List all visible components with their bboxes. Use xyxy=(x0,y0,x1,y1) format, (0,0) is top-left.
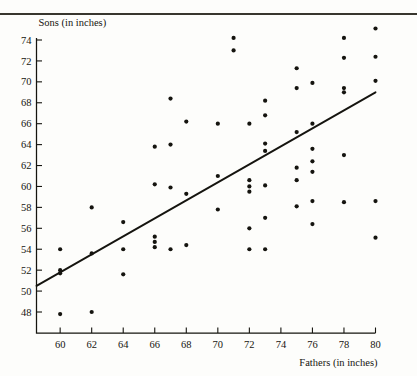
data-point xyxy=(373,55,377,59)
data-point xyxy=(373,79,377,83)
data-point xyxy=(263,216,267,220)
y-tick-label-52: 52 xyxy=(21,265,32,276)
data-point xyxy=(373,199,377,203)
data-point xyxy=(295,130,299,134)
data-point xyxy=(342,90,346,94)
data-point xyxy=(58,271,62,275)
x-tick-label-72: 72 xyxy=(244,339,255,350)
data-point xyxy=(121,272,125,276)
x-tick-label-64: 64 xyxy=(118,339,129,350)
y-tick-label-72: 72 xyxy=(21,56,32,67)
data-point xyxy=(342,200,346,204)
data-point xyxy=(373,236,377,240)
y-tick-label-66: 66 xyxy=(21,118,32,129)
data-point xyxy=(168,143,172,147)
data-point xyxy=(263,99,267,103)
data-point xyxy=(310,170,314,174)
data-point xyxy=(153,145,157,149)
page-header-remnant xyxy=(0,0,417,13)
x-tick-label-74: 74 xyxy=(276,339,287,350)
data-point xyxy=(121,220,125,224)
regression-line xyxy=(37,92,376,286)
data-point xyxy=(247,226,251,230)
data-point xyxy=(342,56,346,60)
data-point xyxy=(153,240,157,244)
data-point xyxy=(263,113,267,117)
y-tick-label-48: 48 xyxy=(21,307,32,318)
data-point xyxy=(247,122,251,126)
data-point xyxy=(231,36,235,40)
data-point xyxy=(310,199,314,203)
data-point xyxy=(153,245,157,249)
data-point xyxy=(231,48,235,52)
x-tick-label-76: 76 xyxy=(307,339,318,350)
data-point xyxy=(295,204,299,208)
data-point xyxy=(247,178,251,182)
data-point xyxy=(342,86,346,90)
data-point xyxy=(310,81,314,85)
data-point xyxy=(184,120,188,124)
data-point xyxy=(310,147,314,151)
x-tick-label-68: 68 xyxy=(181,339,192,350)
data-point xyxy=(90,310,94,314)
data-point xyxy=(168,247,172,251)
data-point xyxy=(90,251,94,255)
data-point xyxy=(342,153,346,157)
y-tick-label-74: 74 xyxy=(21,35,32,46)
data-point xyxy=(216,122,220,126)
data-point xyxy=(295,178,299,182)
y-axis-title: Sons (in inches) xyxy=(39,17,107,29)
data-point xyxy=(216,207,220,211)
data-point xyxy=(295,66,299,70)
data-point xyxy=(168,96,172,100)
y-tick-label-62: 62 xyxy=(21,160,32,171)
data-point xyxy=(247,190,251,194)
y-tick-label-64: 64 xyxy=(21,139,32,150)
data-point xyxy=(58,312,62,316)
plot-axes xyxy=(37,38,376,333)
y-tick-label-54: 54 xyxy=(21,244,32,255)
x-tick-label-80: 80 xyxy=(370,339,381,350)
data-point xyxy=(216,174,220,178)
data-point-group xyxy=(58,26,378,316)
x-tick-label-66: 66 xyxy=(150,339,161,350)
x-tick-label-60: 60 xyxy=(55,339,66,350)
data-point xyxy=(295,166,299,170)
data-point xyxy=(58,247,62,251)
data-point xyxy=(121,247,125,251)
data-point xyxy=(342,36,346,40)
data-point xyxy=(263,149,267,153)
x-tick-label-78: 78 xyxy=(339,339,350,350)
data-point xyxy=(295,86,299,90)
data-point xyxy=(90,205,94,209)
y-tick-label-50: 50 xyxy=(21,286,32,297)
data-point xyxy=(373,26,377,30)
data-point xyxy=(263,247,267,251)
data-point xyxy=(310,222,314,226)
plot-canvas: Sons (in inches)485052545658606264666870… xyxy=(0,13,417,376)
y-tick-label-60: 60 xyxy=(21,181,32,192)
x-axis-title: Fathers (in inches) xyxy=(299,357,378,369)
y-tick-label-68: 68 xyxy=(21,97,32,108)
data-point xyxy=(247,247,251,251)
data-point xyxy=(310,159,314,163)
scatter-plot-figure: Sons (in inches)485052545658606264666870… xyxy=(0,13,417,376)
data-point xyxy=(310,122,314,126)
x-tick-label-70: 70 xyxy=(213,339,224,350)
data-point xyxy=(263,141,267,145)
data-point xyxy=(247,184,251,188)
data-point xyxy=(153,182,157,186)
x-tick-label-62: 62 xyxy=(86,339,97,350)
data-point xyxy=(263,183,267,187)
data-point xyxy=(184,192,188,196)
y-tick-label-56: 56 xyxy=(21,223,32,234)
data-point xyxy=(184,243,188,247)
y-tick-label-58: 58 xyxy=(21,202,32,213)
data-point xyxy=(153,235,157,239)
data-point xyxy=(168,185,172,189)
y-tick-label-70: 70 xyxy=(21,76,32,87)
